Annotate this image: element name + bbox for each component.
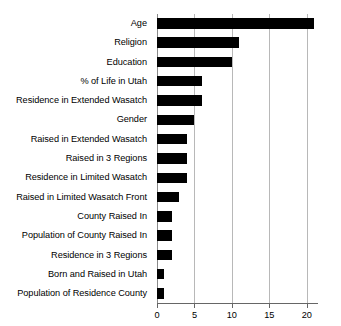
bar-row bbox=[157, 265, 318, 284]
bar bbox=[157, 192, 179, 202]
bar bbox=[157, 269, 164, 279]
x-tick-label: 5 bbox=[182, 310, 206, 320]
category-label: Religion bbox=[0, 33, 152, 52]
bar-row bbox=[157, 168, 318, 187]
bar-row bbox=[157, 284, 318, 303]
bars-container bbox=[157, 14, 318, 304]
bar-row bbox=[157, 226, 318, 245]
category-label: Population of Residence County bbox=[0, 284, 152, 303]
category-axis-labels: AgeReligionEducation% of Life in UtahRes… bbox=[0, 14, 152, 303]
category-label: Residence in Limited Wasatch bbox=[0, 168, 152, 187]
category-label: Age bbox=[0, 14, 152, 33]
category-label: Gender bbox=[0, 110, 152, 129]
bar bbox=[157, 211, 172, 221]
bar bbox=[157, 134, 187, 144]
bar bbox=[157, 153, 187, 163]
bar bbox=[157, 230, 172, 240]
category-label: Born and Raised in Utah bbox=[0, 265, 152, 284]
bar bbox=[157, 37, 239, 47]
bar-row bbox=[157, 188, 318, 207]
bar-row bbox=[157, 33, 318, 52]
bar-chart: AgeReligionEducation% of Life in UtahRes… bbox=[0, 0, 341, 326]
bar-row bbox=[157, 91, 318, 110]
category-label: Residence in 3 Regions bbox=[0, 246, 152, 265]
category-label: % of Life in Utah bbox=[0, 72, 152, 91]
tick-mark bbox=[232, 304, 233, 308]
bar-row bbox=[157, 207, 318, 226]
x-tick-label: 0 bbox=[145, 310, 169, 320]
bar-row bbox=[157, 14, 318, 33]
bar bbox=[157, 115, 194, 125]
bar bbox=[157, 250, 172, 260]
category-label: Raised in 3 Regions bbox=[0, 149, 152, 168]
bar bbox=[157, 18, 314, 28]
tick-mark bbox=[269, 304, 270, 308]
category-label: Population of County Raised In bbox=[0, 226, 152, 245]
category-label: Education bbox=[0, 53, 152, 72]
plot-area bbox=[157, 14, 318, 304]
tick-mark bbox=[194, 304, 195, 308]
x-tick-label: 10 bbox=[220, 310, 244, 320]
bar bbox=[157, 173, 187, 183]
bar bbox=[157, 288, 164, 298]
tick-mark bbox=[157, 304, 158, 308]
bar-row bbox=[157, 149, 318, 168]
bar-row bbox=[157, 53, 318, 72]
x-tick-label: 15 bbox=[257, 310, 281, 320]
x-tick-label: 20 bbox=[295, 310, 319, 320]
bar-row bbox=[157, 246, 318, 265]
bar-row bbox=[157, 110, 318, 129]
category-label: Raised in Extended Wasatch bbox=[0, 130, 152, 149]
category-label: Residence in Extended Wasatch bbox=[0, 91, 152, 110]
bar bbox=[157, 95, 202, 105]
bar-row bbox=[157, 130, 318, 149]
tick-mark bbox=[307, 304, 308, 308]
bar bbox=[157, 76, 202, 86]
x-axis-ticks: 05101520 bbox=[157, 304, 318, 324]
category-label: County Raised In bbox=[0, 207, 152, 226]
category-label: Raised in Limited Wasatch Front bbox=[0, 188, 152, 207]
bar-row bbox=[157, 72, 318, 91]
bar bbox=[157, 57, 232, 67]
